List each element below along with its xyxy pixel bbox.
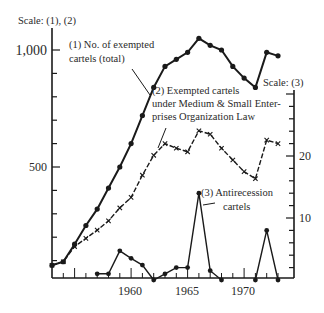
left-y-axis — [52, 28, 60, 278]
data-point-dot — [264, 50, 269, 55]
data-point-dot — [253, 85, 258, 90]
data-point-dot — [174, 265, 179, 270]
series-line — [255, 230, 278, 280]
annotation-1-pointer — [132, 69, 150, 95]
data-point-x — [118, 206, 122, 210]
data-point-x — [152, 153, 156, 157]
annotation-3-pointer — [203, 203, 215, 205]
annotation-2-pointer — [158, 128, 166, 148]
series-line — [97, 193, 221, 280]
annotation-series-3: (3) Antirecession cartels — [201, 187, 274, 212]
y-tick-label-500: 500 — [29, 160, 47, 174]
right-tick-label-20: 20 — [299, 149, 311, 163]
annotation-1-line2: cartels (total) — [69, 53, 125, 65]
data-point-dot — [230, 64, 235, 69]
data-point-dot — [83, 223, 88, 228]
data-point-dot — [276, 278, 281, 283]
data-point-x — [84, 236, 88, 240]
data-point-dot — [140, 263, 145, 268]
data-point-dot — [174, 57, 179, 62]
data-point-dot — [95, 271, 100, 276]
annotation-1-line1: (1) No. of exempted — [69, 39, 155, 51]
data-point-dot — [219, 47, 224, 52]
data-point-dot — [140, 113, 145, 118]
data-point-dot — [253, 278, 258, 283]
data-point-dot — [219, 278, 224, 283]
data-point-dot — [117, 164, 122, 169]
annotation-2-line1: (2) Exempted cartels — [152, 85, 239, 97]
x-tick-label-1960: 1960 — [118, 284, 142, 298]
data-point-dot — [275, 53, 280, 58]
annotation-2-line2: under Medium & Small Enter- — [152, 98, 281, 109]
data-point-dot — [106, 185, 111, 190]
data-point-dot — [185, 265, 190, 270]
data-point-dot — [151, 278, 156, 283]
right-scale-label: Scale: (3) — [263, 77, 304, 89]
data-point-dot — [196, 36, 201, 41]
data-point-dot — [208, 43, 213, 48]
annotation-3-line1: (3) Antirecession — [201, 187, 274, 199]
data-point-x — [106, 219, 110, 223]
data-point-dot — [117, 248, 122, 253]
annotation-2-line3: prises Organization Law — [152, 111, 255, 122]
data-point-dot — [185, 50, 190, 55]
data-point-x — [219, 146, 223, 150]
data-point-dot — [129, 256, 134, 261]
data-point-dot — [129, 141, 134, 146]
data-point-dot — [162, 64, 167, 69]
x-tick-label-1970: 1970 — [231, 284, 255, 298]
data-point-dot — [242, 75, 247, 80]
x-tick-label-1965: 1965 — [175, 284, 199, 298]
series-line — [52, 131, 278, 266]
series-line — [52, 38, 278, 265]
data-point-dot — [264, 228, 269, 233]
data-point-x — [95, 228, 99, 232]
annotation-series-1: (1) No. of exempted cartels (total) — [69, 39, 155, 95]
data-point-dot — [163, 271, 168, 276]
right-y-axis — [286, 90, 294, 278]
cartel-line-chart: Scale: (1), (2) Scale: (3) 1,000 500 20 … — [0, 0, 324, 313]
annotation-series-2: (2) Exempted cartels under Medium & Smal… — [152, 85, 281, 148]
right-tick-label-10: 10 — [299, 211, 311, 225]
data-point-dot — [95, 207, 100, 212]
left-scale-label: Scale: (1), (2) — [18, 15, 77, 27]
data-point-x — [242, 169, 246, 173]
data-point-dot — [106, 271, 111, 276]
series-medium-small-enterprise-cartels — [50, 129, 280, 268]
y-tick-label-1000: 1,000 — [16, 43, 48, 58]
series-total-exempted-cartels — [49, 36, 280, 268]
data-point-x — [231, 158, 235, 162]
annotation-3-line2: cartels — [223, 201, 250, 212]
data-point-dot — [208, 268, 213, 273]
